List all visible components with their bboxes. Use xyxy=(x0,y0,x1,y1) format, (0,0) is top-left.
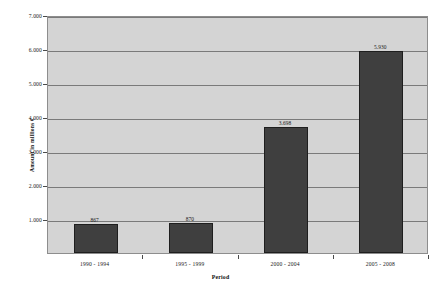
y-tick-label: 2.000 xyxy=(0,183,42,189)
x-tick-label: 1990 - 1994 xyxy=(80,261,109,267)
bar xyxy=(169,223,213,253)
x-tick-mark xyxy=(333,255,334,259)
bar-value-label: 3.698 xyxy=(249,120,321,126)
bar-value-label: 870 xyxy=(154,216,226,222)
x-tick-label: 1995 - 1999 xyxy=(175,261,204,267)
bar-chart: Amount in millions € 1.0002.0003.0004.00… xyxy=(0,0,441,289)
y-tick-label: 7.000 xyxy=(0,13,42,19)
x-tick-label: 2000 - 2004 xyxy=(271,261,300,267)
y-tick-label: 4.000 xyxy=(0,115,42,121)
bar xyxy=(359,51,403,253)
bar xyxy=(74,224,118,253)
y-tick-label: 5.000 xyxy=(0,81,42,87)
bar-value-label: 5.930 xyxy=(344,44,416,50)
x-tick-mark xyxy=(428,255,429,259)
x-axis-title: Period xyxy=(0,274,441,280)
y-tick-label: 1.000 xyxy=(0,217,42,223)
x-tick-mark xyxy=(238,255,239,259)
bar xyxy=(264,127,308,253)
y-tick-label: 6.000 xyxy=(0,47,42,53)
y-tick-label: 3.000 xyxy=(0,149,42,155)
bar-value-label: 867 xyxy=(59,217,131,223)
x-tick-label: 2005 - 2008 xyxy=(366,261,395,267)
x-tick-mark xyxy=(142,255,143,259)
